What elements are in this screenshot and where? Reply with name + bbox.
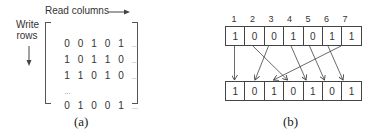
interleave-arrows-icon (0, 0, 371, 139)
caption-b: (b) (283, 114, 298, 130)
